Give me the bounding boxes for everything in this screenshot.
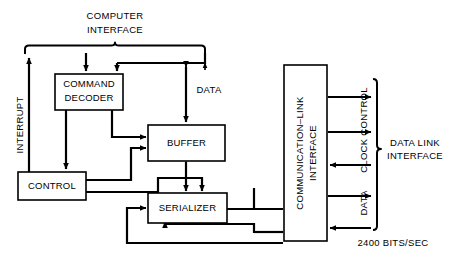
wire-data-rail xyxy=(117,53,205,71)
buffer-label: BUFFER xyxy=(167,137,206,148)
data-top-label: DATA xyxy=(196,84,221,95)
data-link-interface-label-line1: DATA LINK xyxy=(390,137,440,148)
block-comm-link-interface: COMMUNICATION–LINK INTERFACE xyxy=(284,65,327,241)
control-label: CONTROL xyxy=(28,180,76,191)
bit-rate-label: 2400 BITS/SEC xyxy=(358,237,429,248)
computer-interface-label-line2: INTERFACE xyxy=(87,24,143,35)
comm-link-interface-label-line2: INTERFACE xyxy=(307,125,318,181)
clock-control-label: CLOCK CONTROL xyxy=(358,87,369,173)
interrupt-label: INTERRUPT xyxy=(14,96,25,153)
comm-link-interface-label-line1: COMMUNICATION–LINK xyxy=(294,96,305,210)
block-command-decoder: COMMAND DECODER xyxy=(55,74,123,110)
command-decoder-label-line1: COMMAND xyxy=(63,78,115,89)
wire-control-to-buffer xyxy=(85,148,146,180)
block-diagram: COMMAND DECODER CONTROL BUFFER SERIALIZE… xyxy=(0,0,450,278)
diagram-canvas: COMMAND DECODER CONTROL BUFFER SERIALIZE… xyxy=(0,0,450,278)
computer-interface-bracket xyxy=(25,43,205,55)
block-control: CONTROL xyxy=(18,172,86,200)
command-decoder-label-line2: DECODER xyxy=(65,92,114,103)
data-link-bracket xyxy=(373,79,381,230)
block-buffer: BUFFER xyxy=(148,125,225,161)
computer-interface-label-line1: COMPUTER xyxy=(87,10,144,21)
block-serializer: SERIALIZER xyxy=(148,193,227,223)
data-link-interface-label-line2: INTERFACE xyxy=(387,150,443,161)
serializer-label: SERIALIZER xyxy=(159,202,216,213)
wire-decoder-to-buffer xyxy=(112,110,146,137)
data-right-label: DATA xyxy=(358,190,369,215)
